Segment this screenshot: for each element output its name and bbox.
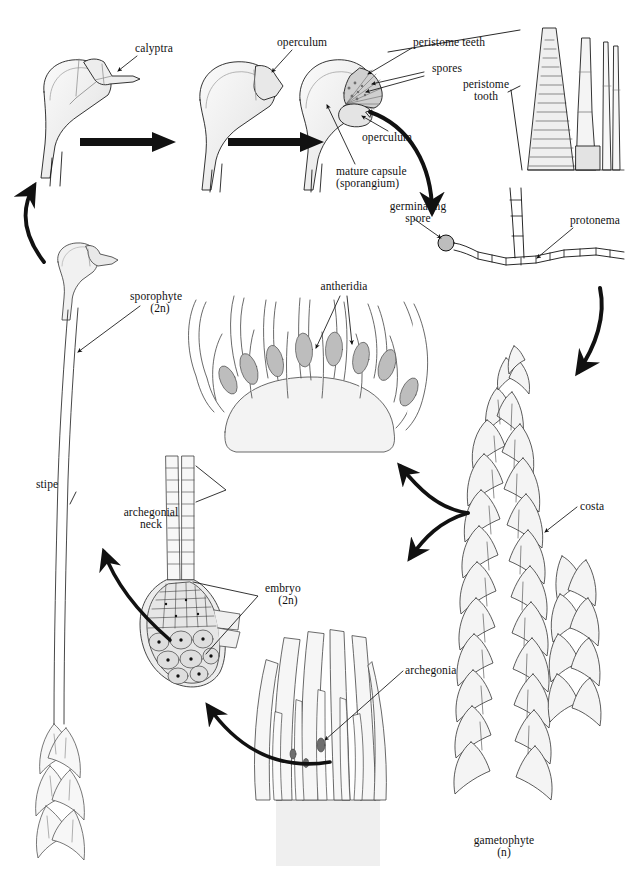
label-peristome-teeth: peristome teeth [413,36,485,49]
germinating-spore-and-protonema [438,188,624,265]
label-costa: costa [580,500,604,513]
leader-operculum-top [272,50,292,72]
label-protonema: protonema [570,214,620,227]
label-sporophyte-line2: (2n) [130,302,190,315]
label-spores: spores [432,62,462,75]
leader-costa [545,507,577,532]
label-antheridia: antheridia [304,280,384,293]
label-archegonial-neck-line1: archegonial [108,506,194,519]
capsule-with-operculum [200,62,283,192]
leader-antheridia-b [347,296,352,344]
gametophyte-shoot [454,346,601,800]
label-gametophyte-line1: gametophyte [452,834,556,847]
arrow-protonema-to-gametophyte [578,288,602,372]
label-germinating-spore-line2: spore [378,212,458,225]
label-gametophyte-line2: (n) [452,846,556,859]
moss-life-cycle-figure: calyptra operculum peristome teeth spore… [0,0,637,876]
label-archegonial-neck-line2: neck [108,518,194,531]
label-archegonia: archegonia [405,664,456,677]
label-germinating-spore-line1: germinating [378,200,458,213]
life-cycle-artwork [0,0,637,876]
leader-calyptra [118,56,137,71]
capsule-with-calyptra [41,59,140,186]
stage-arrows [80,132,324,152]
antheridial-head [189,296,428,452]
label-operculum-mid: operculum [362,131,412,144]
archegonial-head [254,630,386,866]
label-mature-capsule-line2: (sporangium) [336,177,399,190]
label-peristome-tooth-line2: tooth [455,90,517,103]
label-embryo-line1: embryo [265,582,301,595]
label-operculum-top: operculum [277,36,327,49]
leader-archegonial-neck [196,466,226,502]
label-stipe: stipe [36,478,58,491]
arrow-sporophyte-to-capsule [26,186,44,262]
label-sporophyte-line1: sporophyte [130,290,182,303]
leader-protonema [537,228,573,258]
arrow-gametophyte-branch [400,466,468,558]
label-mature-capsule-line1: mature capsule [336,165,407,178]
label-embryo-line2: (2n) [265,594,311,607]
label-peristome-tooth-line1: peristome [455,78,517,91]
leader-stipe [70,492,76,504]
arrow-capsule-to-spore [370,112,432,212]
label-calyptra: calyptra [135,42,173,55]
